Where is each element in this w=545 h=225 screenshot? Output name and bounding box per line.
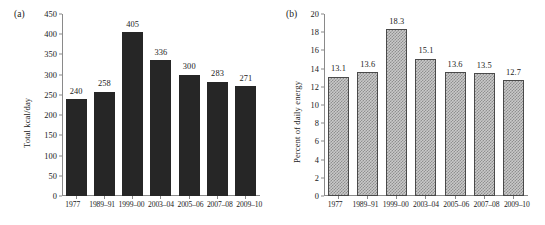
bar-value-label: 15.1 xyxy=(418,47,433,55)
panel-b-x-tick-mark xyxy=(513,196,514,199)
x-tick-label: 1999–00 xyxy=(117,200,146,209)
bar xyxy=(150,60,171,196)
bar-item: 300 xyxy=(175,14,203,196)
panel-b-y-tick-mark xyxy=(321,105,324,106)
panel-b-y-tick-mark xyxy=(321,50,324,51)
panel-b-x-tick-marks xyxy=(324,196,528,199)
panel-a-x-tick-mark-cell xyxy=(147,196,175,199)
bar xyxy=(328,77,349,196)
panel-b-plot-area: 13.113.618.315.113.613.512.7 02468101214… xyxy=(324,14,528,196)
panel-b-x-tick-mark-cell xyxy=(382,196,411,199)
bar-item: 13.1 xyxy=(324,14,353,196)
x-tick-label: 1977 xyxy=(58,200,87,209)
x-tick-label: 1977 xyxy=(320,200,350,209)
panel-a-y-tick-mark xyxy=(59,94,62,95)
bar-value-label: 18.3 xyxy=(389,18,404,26)
panel-b-x-tick-mark xyxy=(396,196,397,199)
bar-value-label: 240 xyxy=(70,88,83,96)
panel-a-y-tick-mark xyxy=(59,54,62,55)
x-tick-label: 2003–04 xyxy=(146,200,175,209)
x-tick-label: 2007–08 xyxy=(205,200,234,209)
bar-item: 283 xyxy=(203,14,231,196)
bar-item: 15.1 xyxy=(411,14,440,196)
panel-a-bar-group: 240258405336300283271 xyxy=(62,14,260,196)
bar-value-label: 13.1 xyxy=(331,65,346,73)
bar-item: 12.7 xyxy=(499,14,528,196)
panel-b-x-tick-mark-cell xyxy=(441,196,470,199)
panel-b-x-tick-mark-cell xyxy=(470,196,499,199)
panel-a-x-tick-labels: 19771989–911999–002003–042005–062007–082… xyxy=(58,200,264,209)
panel-b-y-tick-mark xyxy=(321,159,324,160)
panel-a: (a) Total kcal/day 240258405336300283271… xyxy=(0,0,272,225)
bar-item: 13.6 xyxy=(441,14,470,196)
bar-value-label: 271 xyxy=(239,75,252,83)
bar-value-label: 300 xyxy=(183,63,196,71)
x-tick-label: 1989–91 xyxy=(350,200,380,209)
panel-b-y-tick-mark xyxy=(321,177,324,178)
panel-b-y-tick-mark xyxy=(321,141,324,142)
bar-value-label: 12.7 xyxy=(506,69,521,77)
bar-value-label: 283 xyxy=(211,70,224,78)
bar xyxy=(415,59,436,196)
bar-value-label: 13.6 xyxy=(448,61,463,69)
panel-b-x-tick-labels: 19771989–911999–002003–042005–062007–082… xyxy=(320,200,532,209)
x-tick-label: 2009–10 xyxy=(502,200,532,209)
panel-a-x-tick-mark-cell xyxy=(90,196,118,199)
panel-a-x-tick-mark-cell xyxy=(62,196,90,199)
panel-a-tag: (a) xyxy=(14,9,25,19)
panel-a-x-tick-mark xyxy=(160,196,161,199)
panel-a-x-tick-mark xyxy=(104,196,105,199)
panel-a-x-tick-mark xyxy=(132,196,133,199)
panel-b-x-tick-mark xyxy=(338,196,339,199)
bar-item: 240 xyxy=(62,14,90,196)
panel-a-y-tick-mark xyxy=(59,155,62,156)
panel-a-y-tick-mark xyxy=(59,34,62,35)
panel-a-y-tick-mark xyxy=(59,14,62,15)
panel-b-x-tick-mark-cell xyxy=(499,196,528,199)
x-tick-label: 2009–10 xyxy=(235,200,264,209)
bar-item: 258 xyxy=(90,14,118,196)
bar xyxy=(207,82,228,196)
bar xyxy=(66,99,87,196)
panel-b-y-tick-mark xyxy=(321,68,324,69)
bar xyxy=(386,29,407,196)
x-tick-label: 2003–04 xyxy=(411,200,441,209)
bar-value-label: 258 xyxy=(98,80,111,88)
bar-item: 13.6 xyxy=(353,14,382,196)
bar-item: 13.5 xyxy=(470,14,499,196)
panel-a-x-tick-mark xyxy=(217,196,218,199)
bar xyxy=(357,72,378,196)
panel-a-x-tick-mark xyxy=(245,196,246,199)
panel-a-x-tick-mark xyxy=(76,196,77,199)
panel-b: (b) Percent of daily energy 13.113.618.3… xyxy=(272,0,545,225)
bar xyxy=(445,72,466,196)
bar xyxy=(94,92,115,196)
x-tick-label: 2005–06 xyxy=(176,200,205,209)
panel-b-bar-group: 13.113.618.315.113.613.512.7 xyxy=(324,14,528,196)
panel-b-x-tick-mark xyxy=(425,196,426,199)
bar xyxy=(235,86,256,196)
x-tick-label: 1999–00 xyxy=(381,200,411,209)
panel-b-y-tick-mark xyxy=(321,14,324,15)
bar-value-label: 13.5 xyxy=(477,62,492,70)
panel-b-x-tick-mark xyxy=(455,196,456,199)
bar-value-label: 13.6 xyxy=(360,61,375,69)
panel-a-y-tick-mark xyxy=(59,175,62,176)
panel-a-y-tick-mark xyxy=(59,74,62,75)
panel-b-x-tick-mark-cell xyxy=(411,196,440,199)
x-tick-label: 2005–06 xyxy=(441,200,471,209)
panel-a-x-tick-mark-cell xyxy=(203,196,231,199)
bar xyxy=(179,75,200,196)
panel-b-y-axis-label: Percent of daily energy xyxy=(292,81,302,163)
panel-a-y-tick-mark xyxy=(59,135,62,136)
panel-b-x-tick-mark-cell xyxy=(353,196,382,199)
panel-a-y-tick-mark xyxy=(59,115,62,116)
panel-a-x-tick-marks xyxy=(62,196,260,199)
panel-b-x-tick-mark xyxy=(367,196,368,199)
bar-item: 18.3 xyxy=(382,14,411,196)
panel-a-plot-area: 240258405336300283271 050100150200250300… xyxy=(62,14,260,196)
panel-a-y-axis-label: Total kcal/day xyxy=(22,98,32,148)
panel-b-x-tick-mark-cell xyxy=(324,196,353,199)
bar xyxy=(474,73,495,196)
panel-b-tag: (b) xyxy=(286,9,297,19)
